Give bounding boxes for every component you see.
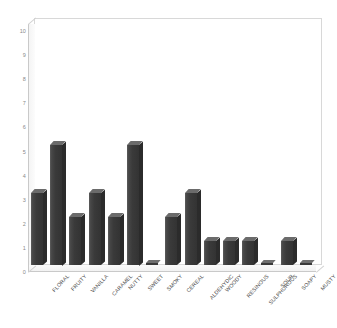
bar-side-face	[235, 237, 239, 265]
bar-column	[31, 193, 43, 265]
x-axis-label-floral: FLORAL	[51, 273, 70, 293]
y-axis-tick-label: 0	[6, 269, 26, 275]
bar-sweet[interactable]	[127, 24, 146, 272]
y-axis-tick-label: 7	[6, 100, 26, 106]
bar-nutty[interactable]	[108, 24, 127, 272]
bar-column	[146, 263, 158, 265]
y-axis-tick-label: 2	[6, 221, 26, 227]
bar-resinous[interactable]	[223, 24, 242, 272]
bar-zero-marker	[146, 263, 158, 265]
bar-floral[interactable]	[31, 24, 50, 272]
bar-column	[108, 217, 120, 265]
bar-side-face	[216, 237, 220, 265]
bar-aldehydic[interactable]	[185, 24, 204, 272]
bar-column	[69, 217, 81, 265]
bar-column	[89, 193, 101, 265]
bar-sulphurous[interactable]	[242, 24, 261, 272]
y-axis-tick-label: 3	[6, 197, 26, 203]
bars-container	[28, 24, 323, 272]
bar-caramel[interactable]	[89, 24, 108, 272]
bar-fruity[interactable]	[50, 24, 69, 272]
bar-side-face	[81, 213, 85, 265]
x-axis-label-vanilla: VANILLA	[90, 273, 110, 294]
bar-column	[300, 263, 312, 265]
bar-side-face	[120, 213, 124, 265]
bar-sour[interactable]	[261, 24, 280, 272]
bar-column	[261, 263, 273, 265]
bar-smoky[interactable]	[146, 24, 165, 272]
bar-column	[281, 241, 293, 265]
y-axis-tick-label: 4	[6, 173, 26, 179]
bar-column	[50, 145, 62, 266]
x-axis-label-resinous: RESINOUS	[245, 273, 269, 299]
bar-woody[interactable]	[204, 24, 223, 272]
bar-musty[interactable]	[300, 24, 319, 272]
bar-side-face	[43, 189, 47, 265]
bar-zero-marker	[300, 263, 312, 265]
x-axis-label-smoky: SMOKY	[166, 273, 184, 292]
x-axis-category-labels: FLORALFRUITYVANILLACARAMELNUTTYSWEETSMOK…	[28, 273, 328, 328]
x-axis-label-cereal: CEREAL	[186, 273, 206, 294]
bar-side-face	[254, 237, 258, 265]
bar-side-face	[62, 141, 66, 265]
bar-side-face	[101, 189, 105, 265]
y-axis-tick-label: 8	[6, 76, 26, 82]
bar-side-face	[177, 213, 181, 265]
bar-cereal[interactable]	[165, 24, 184, 272]
bar-vanilla[interactable]	[69, 24, 88, 272]
x-axis-label-soapy: SOAPY	[300, 273, 318, 291]
x-axis-label-fruity: FRUITY	[70, 273, 88, 292]
y-axis-tick-labels: 012345678910	[2, 0, 26, 328]
x-axis-label-sweet: SWEET	[146, 273, 164, 292]
bar-column	[165, 217, 177, 265]
bar-side-face	[197, 189, 201, 265]
bar-column	[185, 193, 197, 265]
bar-zero-marker	[261, 263, 273, 265]
bar-column	[127, 145, 139, 266]
bar-column	[242, 241, 254, 265]
y-axis-tick-label: 10	[6, 28, 26, 34]
bar-side-face	[293, 237, 297, 265]
y-axis-tick-label: 6	[6, 124, 26, 130]
x-axis-label-musty: MUSTY	[319, 273, 337, 291]
y-axis-tick-label: 1	[6, 245, 26, 251]
y-axis-tick-label: 5	[6, 149, 26, 155]
bar-column	[204, 241, 216, 265]
bar-column	[223, 241, 235, 265]
y-axis-tick-label: 9	[6, 52, 26, 58]
bar-soapy[interactable]	[281, 24, 300, 272]
bar-side-face	[139, 141, 143, 265]
